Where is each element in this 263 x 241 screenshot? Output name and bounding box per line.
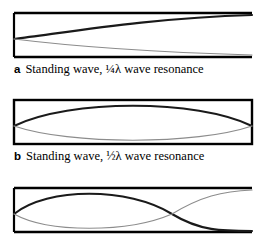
panel-a-caption-text: Standing wave, ¼λ wave resonance <box>25 62 203 76</box>
panel-a-letter: a <box>14 63 20 75</box>
panel-b: bStanding wave, ½λ wave resonance <box>0 95 263 147</box>
panel-b-diagram <box>0 95 263 147</box>
panel-c-diagram <box>0 183 263 241</box>
panel-a-caption: aStanding wave, ¼λ wave resonance <box>14 62 259 76</box>
wave-envelope-a <box>14 15 252 55</box>
panel-a-diagram <box>0 8 263 60</box>
standing-wave-figure: aStanding wave, ¼λ wave resonance bStand… <box>0 0 263 241</box>
wave-envelope-b <box>14 106 252 141</box>
wave-envelope-c <box>14 190 252 231</box>
panel-a: aStanding wave, ¼λ wave resonance <box>0 8 263 60</box>
panel-b-letter: b <box>14 150 21 162</box>
panel-b-caption: bStanding wave, ½λ wave resonance <box>14 149 259 163</box>
panel-c <box>0 183 263 241</box>
panel-b-caption-text: Standing wave, ½λ wave resonance <box>26 149 204 163</box>
